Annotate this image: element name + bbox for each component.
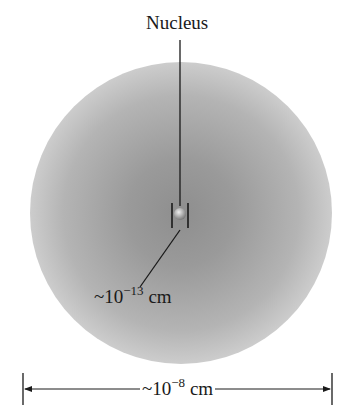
atom-size-unit: cm (185, 378, 213, 399)
arrow-right-icon (323, 386, 331, 392)
atom-size-exponent: −8 (171, 375, 185, 390)
nucleus (174, 208, 186, 220)
nucleus-size-prefix: ~10 (94, 286, 123, 307)
nucleus-size-label: ~10−13 cm (94, 283, 172, 308)
arrow-left-icon (24, 386, 32, 392)
atom-size-prefix: ~10 (142, 378, 171, 399)
atom-size-label: ~10−8 cm (140, 375, 215, 400)
nucleus-size-unit: cm (144, 286, 172, 307)
nucleus-label: Nucleus (146, 12, 208, 34)
diagram-lines (0, 0, 363, 417)
nucleus-size-exponent: −13 (123, 283, 143, 298)
nucleus-size-pointer (140, 230, 180, 287)
